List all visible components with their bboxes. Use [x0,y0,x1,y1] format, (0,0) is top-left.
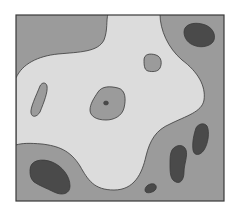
center-dark-dot [104,101,109,105]
contour-diagram [0,0,236,214]
top-mid-island [144,54,161,71]
